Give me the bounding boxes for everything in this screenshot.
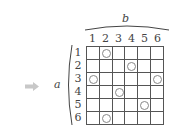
row-label: 5 bbox=[73, 98, 83, 111]
grid-cell bbox=[87, 112, 100, 125]
circle-mark-icon bbox=[140, 101, 149, 110]
grid-row bbox=[87, 60, 164, 73]
grid-cell bbox=[151, 47, 164, 60]
circle-mark-icon bbox=[102, 114, 111, 123]
grid-cell bbox=[87, 73, 100, 86]
grid-cell bbox=[138, 86, 151, 99]
grid-row bbox=[87, 73, 164, 86]
grid-cell bbox=[151, 86, 164, 99]
column-label: 2 bbox=[99, 32, 112, 45]
grid-row bbox=[87, 112, 164, 125]
grid-cell bbox=[125, 47, 138, 60]
grid-cell bbox=[151, 73, 164, 86]
grid-cell bbox=[138, 73, 151, 86]
grid-cell bbox=[112, 47, 125, 60]
grid-cell bbox=[151, 60, 164, 73]
circle-mark-icon bbox=[115, 88, 124, 97]
circle-mark-icon bbox=[102, 49, 111, 58]
row-label: 4 bbox=[73, 85, 83, 98]
grid-cell bbox=[87, 86, 100, 99]
grid-cell bbox=[99, 86, 112, 99]
grid-cell bbox=[99, 99, 112, 112]
grid-row bbox=[87, 47, 164, 60]
grid-cell bbox=[87, 47, 100, 60]
column-label: 3 bbox=[112, 32, 125, 45]
circle-mark-icon bbox=[89, 75, 98, 84]
column-label: 4 bbox=[125, 32, 138, 45]
column-label: 5 bbox=[138, 32, 151, 45]
row-label: 1 bbox=[73, 46, 83, 59]
grid-cell bbox=[125, 99, 138, 112]
grid-cell bbox=[151, 112, 164, 125]
grid-cell bbox=[112, 112, 125, 125]
row-variable-label: a bbox=[54, 78, 61, 91]
grid-cell bbox=[138, 112, 151, 125]
circle-mark-icon bbox=[153, 75, 162, 84]
grid-cell bbox=[138, 60, 151, 73]
grid-cell bbox=[112, 99, 125, 112]
row-label: 3 bbox=[73, 72, 83, 85]
grid-cell bbox=[138, 47, 151, 60]
circle-mark-icon bbox=[127, 62, 136, 71]
grid-cell bbox=[87, 60, 100, 73]
grid-row bbox=[87, 99, 164, 112]
row-label: 2 bbox=[73, 59, 83, 72]
grid-cell bbox=[99, 73, 112, 86]
grid-cell bbox=[151, 99, 164, 112]
grid-cell bbox=[112, 73, 125, 86]
grid-cell bbox=[99, 47, 112, 60]
grid-cell bbox=[112, 86, 125, 99]
grid-row bbox=[87, 86, 164, 99]
column-label: 1 bbox=[86, 32, 99, 45]
column-variable-label: b bbox=[122, 12, 129, 25]
row-label: 6 bbox=[73, 111, 83, 124]
grid-cell bbox=[125, 73, 138, 86]
grid-cell bbox=[112, 60, 125, 73]
right-arrow-icon bbox=[25, 82, 39, 91]
outcome-grid bbox=[86, 46, 164, 125]
grid-cell bbox=[99, 112, 112, 125]
grid-cell bbox=[125, 86, 138, 99]
grid-cell bbox=[125, 112, 138, 125]
grid-cell bbox=[87, 99, 100, 112]
grid-cell bbox=[125, 60, 138, 73]
grid-cell bbox=[99, 60, 112, 73]
column-label: 6 bbox=[151, 32, 164, 45]
grid-cell bbox=[138, 99, 151, 112]
